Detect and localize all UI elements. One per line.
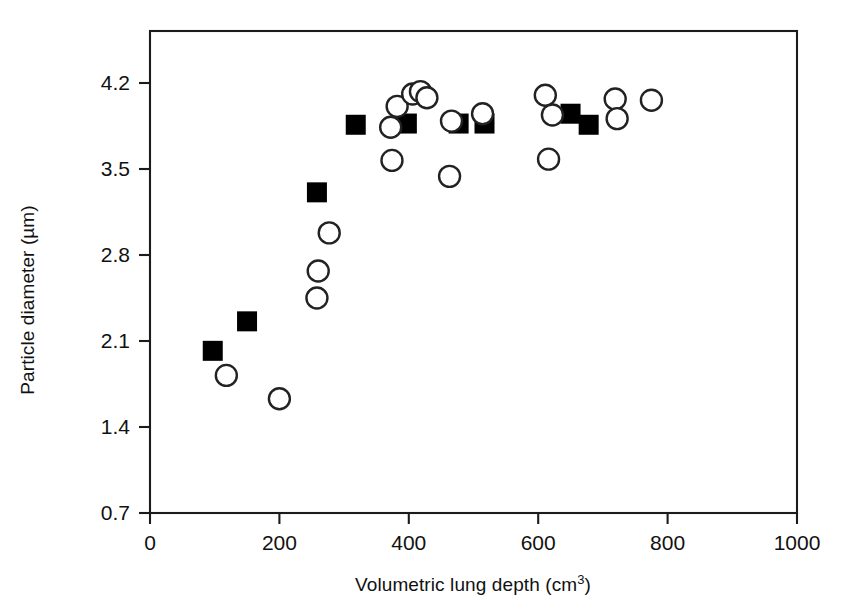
data-point-circle	[269, 388, 290, 409]
data-point-square	[579, 115, 599, 135]
data-point-square	[307, 182, 327, 202]
data-point-circle	[605, 88, 626, 109]
data-point-circle	[607, 108, 628, 129]
data-point-circle	[439, 166, 460, 187]
data-point-circle	[416, 87, 437, 108]
x-tick-label: 600	[521, 531, 556, 554]
data-point-circle	[308, 260, 329, 281]
data-point-circle	[380, 117, 401, 138]
y-tick-label: 1.4	[101, 415, 131, 438]
x-tick-label: 400	[391, 531, 426, 554]
data-point-circle	[216, 365, 237, 386]
x-tick-label: 0	[144, 531, 156, 554]
y-tick-label: 0.7	[101, 501, 130, 524]
x-axis-title: Volumetric lung depth (cm3)	[355, 572, 591, 595]
data-point-square	[237, 311, 257, 331]
y-tick-label: 4.2	[101, 71, 130, 94]
data-point-circle	[472, 103, 493, 124]
x-tick-label: 800	[650, 531, 685, 554]
data-point-circle	[381, 150, 402, 171]
data-point-circle	[306, 288, 327, 309]
y-tick-label: 2.8	[101, 243, 130, 266]
data-point-circle	[538, 149, 559, 170]
x-tick-label: 200	[262, 531, 297, 554]
x-axis-title-base: Volumetric lung depth (cm	[355, 574, 577, 595]
data-point-square	[346, 115, 366, 135]
data-point-square	[203, 341, 223, 361]
y-tick-label: 2.1	[101, 329, 130, 352]
x-axis-title-tail: )	[585, 574, 591, 595]
x-tick-label: 1000	[774, 531, 821, 554]
data-point-circle	[535, 85, 556, 106]
data-point-circle	[441, 111, 462, 132]
data-point-circle	[319, 222, 340, 243]
y-tick-label: 3.5	[101, 157, 130, 180]
scatter-plot-figure: 0.71.42.12.83.54.2 02004006008001000 Vol…	[0, 0, 851, 615]
x-axis-title-superscript: 3	[577, 572, 584, 587]
y-axis-title: Particle diameter (µm)	[17, 205, 38, 394]
data-point-circle	[641, 90, 662, 111]
data-point-circle	[542, 104, 563, 125]
